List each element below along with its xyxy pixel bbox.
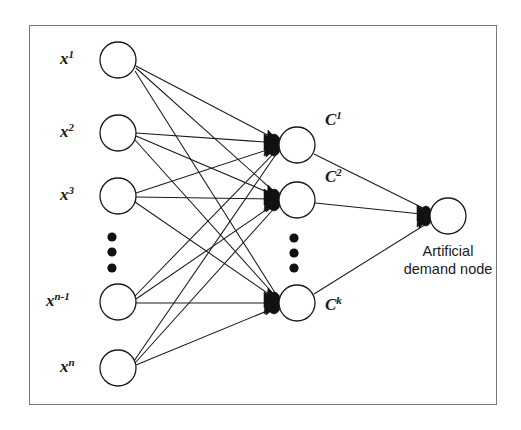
edge-xn-c2 <box>135 203 279 363</box>
input-layer-nodes <box>100 42 136 386</box>
edge-c2-demand <box>315 203 431 215</box>
edge-x3-c2 <box>136 197 279 199</box>
node-xn <box>100 350 136 386</box>
edge-x1-c1 <box>136 66 279 141</box>
node-x3 <box>100 178 136 214</box>
edge-x2-ck <box>135 140 279 300</box>
node-ck <box>279 285 315 321</box>
label-x2: x2 <box>60 122 74 140</box>
label-x3: x3 <box>60 185 74 203</box>
edge-x1-ck <box>135 71 279 299</box>
edge-xn1-c2 <box>136 201 279 299</box>
cluster-layer-ellipsis-icon <box>289 233 298 272</box>
node-c2 <box>279 182 315 218</box>
label-xn-1: xn-1 <box>46 291 70 309</box>
input-layer-ellipsis-icon <box>107 232 116 272</box>
network-graphics <box>0 0 521 430</box>
node-artificial-demand <box>430 198 466 234</box>
artificial-demand-node-caption: Artificial demand node <box>380 242 516 278</box>
caption-line-1: Artificial <box>380 242 516 260</box>
node-x1 <box>100 42 136 78</box>
node-c1 <box>279 127 315 163</box>
edge-xn-c1 <box>134 150 279 361</box>
cluster-layer-nodes <box>279 127 315 321</box>
label-c2: C2 <box>325 167 342 185</box>
caption-line-2: demand node <box>380 260 516 278</box>
diagram-page: x1 x2 x3 xn-1 xn C1 C2 Ck Artificial dem… <box>0 0 521 430</box>
label-c1: C1 <box>325 110 342 128</box>
label-ck: Ck <box>325 295 342 313</box>
edge-xn-ck <box>136 306 279 365</box>
edge-x2-c2 <box>136 136 279 197</box>
node-x2 <box>100 115 136 151</box>
edges-input-to-cluster <box>134 66 279 365</box>
edge-x2-c1 <box>136 133 279 143</box>
edge-x3-ck <box>135 202 279 301</box>
edge-x1-c2 <box>136 68 279 196</box>
node-xn-1 <box>100 284 136 320</box>
label-x1: x1 <box>60 49 74 67</box>
output-layer-node <box>430 198 466 234</box>
label-xn: xn <box>60 357 75 375</box>
